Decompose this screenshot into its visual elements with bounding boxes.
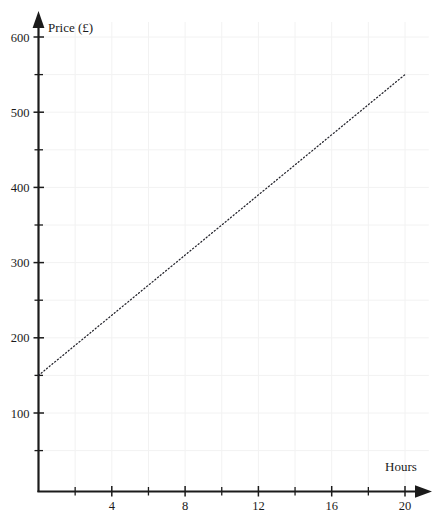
y-tick-label: 400 — [11, 181, 30, 195]
x-axis-title: Hours — [385, 459, 417, 474]
y-tick-label: 500 — [11, 106, 30, 120]
price-hours-line-chart: 600500400300200100 48121620 Price (£) Ho… — [0, 0, 442, 521]
chart-container: 600500400300200100 48121620 Price (£) Ho… — [0, 0, 442, 521]
y-tick-label: 600 — [11, 31, 30, 45]
y-axis-title: Price (£) — [48, 20, 93, 35]
y-tick-label: 100 — [11, 407, 30, 421]
y-tick-label: 200 — [11, 331, 30, 345]
x-tick-label: 4 — [109, 499, 116, 513]
x-tick-label: 16 — [325, 499, 338, 513]
chart-background — [0, 0, 442, 521]
x-tick-label: 20 — [399, 499, 412, 513]
y-tick-label: 300 — [11, 256, 30, 270]
x-tick-label: 8 — [182, 499, 188, 513]
x-tick-label: 12 — [252, 499, 265, 513]
